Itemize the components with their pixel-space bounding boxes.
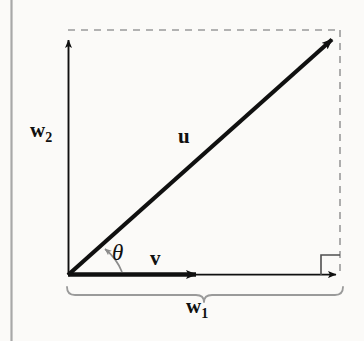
label-w1-base: w bbox=[186, 294, 201, 318]
label-w2-subscript: 2 bbox=[45, 130, 52, 145]
label-w2: w2 bbox=[30, 120, 52, 141]
vector-diagram-figure: w2 w1 u v θ bbox=[0, 0, 364, 341]
label-u: u bbox=[178, 126, 190, 147]
label-v: v bbox=[150, 248, 161, 269]
label-theta: θ bbox=[112, 241, 123, 264]
vector-u bbox=[68, 40, 332, 276]
label-w1: w1 bbox=[186, 296, 208, 317]
label-w1-subscript: 1 bbox=[201, 306, 208, 321]
diagram-canvas bbox=[0, 0, 364, 341]
label-w2-base: w bbox=[30, 118, 45, 142]
right-angle-marker bbox=[321, 255, 340, 275]
